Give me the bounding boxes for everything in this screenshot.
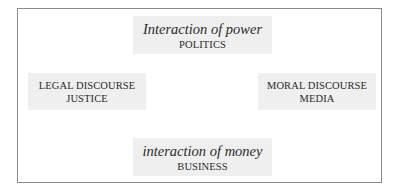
legal-discourse-label: LEGAL DISCOURSE: [39, 79, 136, 92]
justice-box: LEGAL DISCOURSE JUSTICE: [28, 73, 146, 110]
money-interaction-title: interaction of money: [142, 142, 262, 160]
justice-label: JUSTICE: [66, 92, 108, 105]
media-label: MEDIA: [300, 92, 335, 105]
moral-discourse-label: MORAL DISCOURSE: [267, 79, 367, 92]
business-label: BUSINESS: [177, 160, 227, 173]
power-interaction-title: Interaction of power: [143, 20, 262, 38]
politics-label: POLITICS: [179, 38, 226, 51]
politics-box: Interaction of power POLITICS: [133, 16, 272, 54]
media-box: MORAL DISCOURSE MEDIA: [258, 73, 376, 110]
business-box: interaction of money BUSINESS: [133, 138, 272, 176]
